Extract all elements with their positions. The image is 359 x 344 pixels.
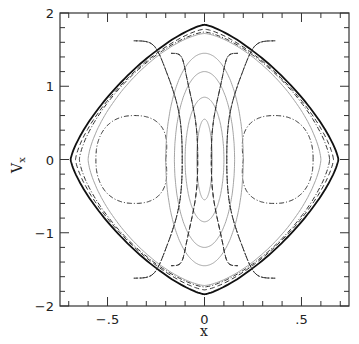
y-tick-label: −1 [35, 226, 54, 241]
central-ellipse-3-curve [174, 72, 234, 248]
x-tick-label: −.5 [96, 312, 119, 327]
y-tick-label: 2 [46, 6, 54, 21]
inner-separatrix-curve [171, 53, 238, 265]
y-tick-label: 1 [46, 79, 54, 94]
left-island-curve [96, 116, 167, 204]
dashed-envelope-curve [76, 29, 334, 290]
outer-boundary-curve [71, 25, 339, 295]
plot-frame [60, 13, 349, 306]
phase-space-chart: −.50.5−2−1012 x Vx [0, 0, 359, 344]
y-axis-label: Vx [9, 157, 27, 174]
central-ellipse-4-curve [166, 53, 244, 265]
x-tick-label: .5 [295, 312, 307, 327]
central-ellipse-2-curve [185, 97, 224, 222]
plot-curves [71, 25, 339, 295]
y-tick-label: 0 [46, 153, 54, 168]
x-axis-label: x [200, 323, 208, 339]
axis-ticks [60, 13, 349, 306]
y-tick-label: −2 [35, 299, 54, 314]
outer-separatrix-curve [134, 41, 275, 278]
central-ellipse-1-curve [197, 119, 213, 200]
svg-text:Vx: Vx [9, 157, 27, 174]
right-island-curve [242, 116, 313, 204]
dashdot-envelope-curve [79, 32, 329, 287]
